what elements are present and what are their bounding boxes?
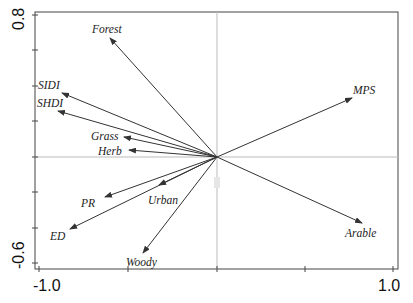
vector-shdi bbox=[58, 111, 217, 157]
ordination-biplot: 0.8 -0.6 -1.0 1.0 Forest SIDI SHDI Grass… bbox=[0, 0, 413, 303]
label-pr: PR bbox=[80, 197, 95, 209]
label-forest: Forest bbox=[91, 23, 122, 35]
vector-mps bbox=[217, 98, 352, 157]
artifact-square bbox=[214, 177, 220, 188]
label-sidi: SIDI bbox=[38, 79, 61, 91]
vector-grass bbox=[124, 137, 217, 157]
label-mps: MPS bbox=[352, 84, 376, 96]
x-tick-label-left: -1.0 bbox=[33, 277, 61, 294]
label-shdi: SHDI bbox=[37, 97, 64, 109]
label-herb: Herb bbox=[97, 145, 122, 157]
label-ed: ED bbox=[49, 230, 66, 242]
y-tick-label-bottom: -0.6 bbox=[10, 241, 27, 269]
label-grass: Grass bbox=[91, 130, 119, 142]
label-woody: Woody bbox=[126, 256, 158, 269]
x-tick-label-right: 1.0 bbox=[378, 277, 400, 294]
vector-ed bbox=[70, 157, 217, 229]
vector-forest bbox=[110, 38, 217, 157]
vector-pr bbox=[105, 157, 217, 197]
vector-sidi bbox=[62, 93, 217, 157]
label-urban: Urban bbox=[148, 194, 178, 206]
label-arable: Arable bbox=[344, 227, 376, 239]
y-tick-label-top: 0.8 bbox=[10, 8, 27, 30]
vector-arable bbox=[217, 157, 362, 223]
